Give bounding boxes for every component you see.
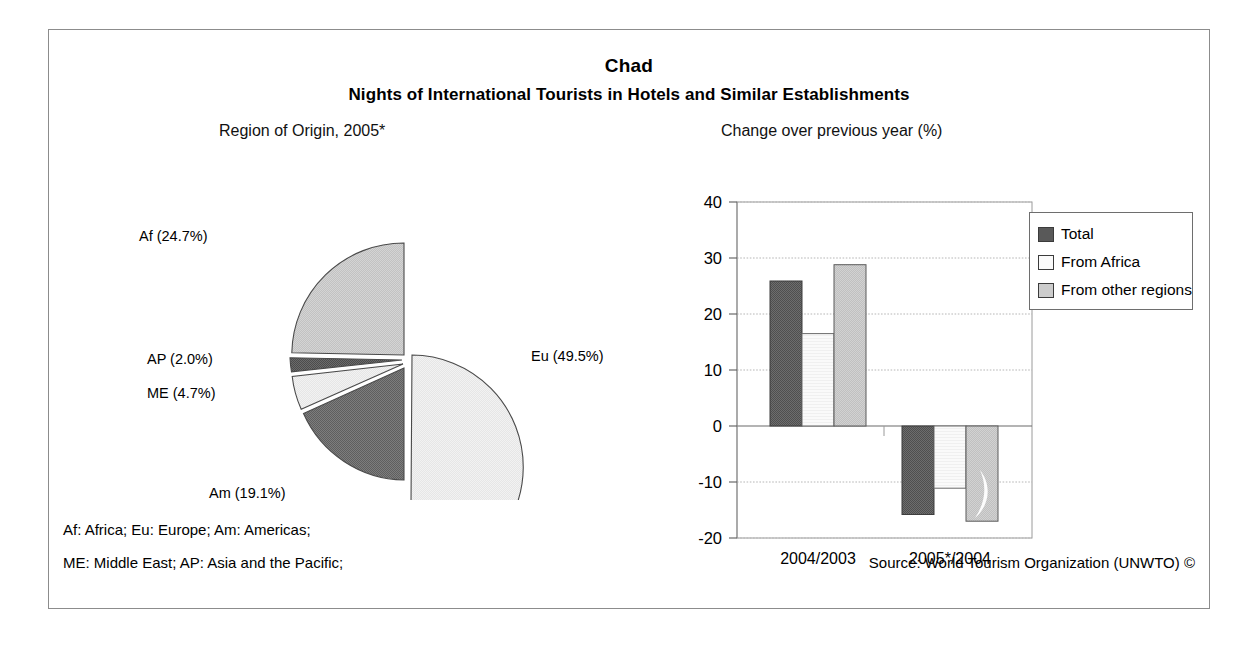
x-label-2004-2003: 2004/2003 [780,550,856,567]
pie-label-ap: AP (2.0%) [147,351,213,367]
y-tick-10: 10 [704,361,722,379]
pie-svg [61,140,621,500]
bar-legend: Total From Africa From other regions [1029,212,1193,310]
bar-panel-title: Change over previous year (%) [721,122,942,140]
legend-swatch-total [1038,227,1054,242]
pie-chart: Af (24.7%) Eu (49.5%) AP (2.0%) ME (4.7%… [61,140,621,500]
legend-label-from-other-regions: From other regions [1061,282,1192,298]
bar-svg: 40 30 20 10 0 -10 -20 2004/2003 2005*/20… [639,140,1199,570]
legend-swatch-from-africa [1038,255,1054,270]
chart-subtitle: Nights of International Tourists in Hote… [49,85,1209,105]
y-tick-0: 0 [713,417,722,435]
bar-other-2004 [834,265,866,426]
chart-title: Chad [49,55,1209,77]
y-tick-minus10: -10 [698,473,722,491]
y-tick-20: 20 [704,305,722,323]
pie-label-af: Af (24.7%) [139,228,208,244]
bar-total-2004 [770,281,802,426]
abbreviation-note-line-1: Af: Africa; Eu: Europe; Am: Americas; [63,521,311,538]
y-tick-minus20: -20 [698,529,722,547]
bar-chart: 40 30 20 10 0 -10 -20 2004/2003 2005*/20… [639,140,1199,570]
legend-item-from-africa: From Africa [1038,248,1184,276]
pie-panel-title: Region of Origin, 2005* [219,122,385,140]
pie-label-am: Am (19.1%) [209,485,286,501]
y-tick-40: 40 [704,193,722,211]
legend-label-from-africa: From Africa [1061,254,1140,270]
legend-label-total: Total [1061,226,1094,242]
bar-total-2005 [902,426,934,515]
bar-africa-2005 [934,426,966,488]
legend-item-total: Total [1038,220,1184,248]
y-axis-ticks [729,202,737,538]
pie-label-eu: Eu (49.5%) [531,348,604,364]
legend-item-from-other-regions: From other regions [1038,276,1184,304]
pie-label-me: ME (4.7%) [147,385,216,401]
chart-frame: Chad Nights of International Tourists in… [48,29,1210,609]
source-note: Source: World Tourism Organization (UNWT… [869,554,1195,571]
abbreviation-note-line-2: ME: Middle East; AP: Asia and the Pacifi… [63,554,343,571]
pie-slice-af [292,243,404,355]
y-tick-30: 30 [704,249,722,267]
pie-slice-eu [411,355,524,500]
bar-africa-2004 [802,334,834,426]
legend-swatch-from-other-regions [1038,283,1054,298]
